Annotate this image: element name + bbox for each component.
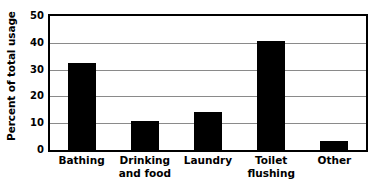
x-tick-label-line: flushing [234, 167, 309, 180]
x-tick-label-line: Toilet [255, 154, 287, 166]
x-tick-label-line: Bathing [59, 154, 105, 166]
y-tick-label: 40 [22, 38, 44, 48]
x-tick-label-line: Drinking [120, 154, 171, 166]
y-tick-label: 30 [22, 65, 44, 75]
bar-chart: Percent of total usage 01020304050 Bathi… [0, 0, 377, 190]
bar [320, 141, 348, 150]
y-tick-label: 50 [22, 11, 44, 21]
x-tick-label: Other [297, 154, 372, 167]
x-tick-label-line: and food [107, 167, 182, 180]
y-tick-label: 10 [22, 118, 44, 128]
x-tick-label-line: Other [318, 154, 352, 166]
x-axis-tick-labels: BathingDrinkingand foodLaundryToiletflus… [48, 154, 368, 190]
x-tick-label-line: Laundry [184, 154, 232, 166]
y-axis-title-text: Percent of total usage [5, 11, 17, 141]
y-tick-label: 0 [22, 145, 44, 155]
y-axis-tick-labels: 01020304050 [22, 0, 46, 190]
bar [257, 41, 285, 150]
bars-group [50, 16, 366, 150]
bar [194, 112, 222, 150]
y-axis-title: Percent of total usage [0, 0, 22, 152]
bar [68, 63, 96, 150]
bar [131, 121, 159, 150]
plot-area [48, 14, 368, 152]
y-tick-label: 20 [22, 91, 44, 101]
